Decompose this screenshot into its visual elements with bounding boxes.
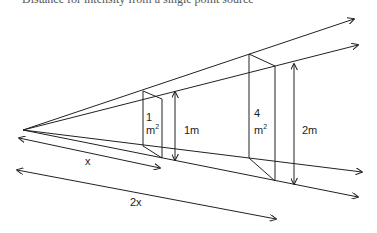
large-area-frame — [249, 54, 275, 181]
ray-top — [23, 19, 354, 130]
small-height-label: 1m — [184, 124, 199, 136]
small-area-unit: m2 — [146, 123, 159, 136]
small-area-number: 1 — [146, 111, 152, 123]
ray-lower — [23, 130, 362, 172]
distance-x-label: x — [85, 155, 91, 167]
inverse-square-diagram: 1 m2 1m 4 m2 2m x 2x — [0, 0, 377, 233]
large-area-unit: m2 — [254, 123, 267, 136]
ray-bottom — [23, 130, 358, 197]
distance-2x-arrow — [17, 170, 276, 219]
ray-upper — [23, 45, 358, 130]
large-area-number: 4 — [254, 107, 260, 119]
large-height-label: 2m — [302, 124, 317, 136]
distance-2x-label: 2x — [130, 196, 142, 208]
